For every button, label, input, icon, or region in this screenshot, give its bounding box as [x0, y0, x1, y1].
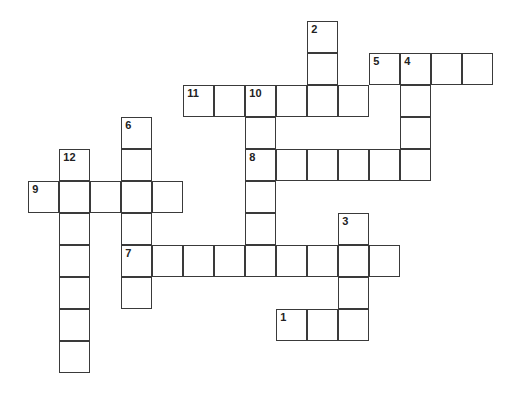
clue-number: 7	[125, 248, 131, 259]
crossword-cell[interactable]	[121, 213, 152, 245]
crossword-cell[interactable]	[307, 53, 338, 85]
clue-number: 12	[63, 152, 75, 163]
crossword-cell[interactable]: 2	[307, 21, 338, 53]
crossword-cell[interactable]: 9	[28, 181, 59, 213]
crossword-cell[interactable]	[369, 245, 400, 277]
crossword-cell[interactable]	[214, 245, 245, 277]
crossword-cell[interactable]	[400, 85, 431, 117]
crossword-cell[interactable]	[245, 245, 276, 277]
clue-number: 5	[373, 56, 379, 67]
crossword-grid: 123456789101112	[0, 0, 524, 395]
crossword-cell[interactable]	[59, 341, 90, 373]
crossword-cell[interactable]	[214, 85, 245, 117]
crossword-cell[interactable]: 1	[276, 309, 307, 341]
clue-number: 3	[342, 216, 348, 227]
crossword-cell[interactable]: 3	[338, 213, 369, 245]
crossword-cell[interactable]: 5	[369, 53, 400, 85]
crossword-cell[interactable]	[183, 245, 214, 277]
crossword-cell[interactable]	[431, 53, 462, 85]
crossword-cell[interactable]: 11	[183, 85, 214, 117]
clue-number: 1	[280, 312, 286, 323]
clue-number: 2	[311, 24, 317, 35]
clue-number: 8	[249, 152, 255, 163]
crossword-cell[interactable]	[245, 213, 276, 245]
crossword-cell[interactable]	[121, 277, 152, 309]
crossword-cell[interactable]	[276, 245, 307, 277]
crossword-cell[interactable]	[59, 277, 90, 309]
clue-number: 9	[32, 184, 38, 195]
clue-number: 6	[125, 120, 131, 131]
crossword-cell[interactable]: 6	[121, 117, 152, 149]
crossword-cell[interactable]	[245, 117, 276, 149]
crossword-cell[interactable]	[307, 85, 338, 117]
crossword-cell[interactable]: 8	[245, 149, 276, 181]
crossword-cell[interactable]	[369, 149, 400, 181]
crossword-cell[interactable]	[59, 181, 90, 213]
crossword-cell[interactable]	[59, 213, 90, 245]
crossword-cell[interactable]	[59, 245, 90, 277]
crossword-cell[interactable]	[462, 53, 493, 85]
clue-number: 10	[249, 88, 261, 99]
crossword-cell[interactable]: 10	[245, 85, 276, 117]
crossword-cell[interactable]	[338, 309, 369, 341]
crossword-cell[interactable]	[90, 181, 121, 213]
crossword-cell[interactable]	[152, 245, 183, 277]
crossword-cell[interactable]	[307, 149, 338, 181]
crossword-cell[interactable]	[400, 149, 431, 181]
crossword-cell[interactable]	[400, 117, 431, 149]
crossword-cell[interactable]	[276, 85, 307, 117]
crossword-cell[interactable]	[307, 309, 338, 341]
crossword-cell[interactable]	[338, 85, 369, 117]
crossword-cell[interactable]	[338, 245, 369, 277]
crossword-cell[interactable]	[121, 149, 152, 181]
clue-number: 11	[187, 88, 199, 99]
crossword-cell[interactable]	[338, 149, 369, 181]
crossword-cell[interactable]: 4	[400, 53, 431, 85]
crossword-cell[interactable]	[245, 181, 276, 213]
crossword-cell[interactable]	[338, 277, 369, 309]
clue-number: 4	[404, 56, 410, 67]
crossword-cell[interactable]	[276, 149, 307, 181]
crossword-cell[interactable]	[307, 245, 338, 277]
crossword-cell[interactable]: 7	[121, 245, 152, 277]
crossword-cell[interactable]: 12	[59, 149, 90, 181]
crossword-cell[interactable]	[121, 181, 152, 213]
crossword-cell[interactable]	[59, 309, 90, 341]
crossword-cell[interactable]	[152, 181, 183, 213]
